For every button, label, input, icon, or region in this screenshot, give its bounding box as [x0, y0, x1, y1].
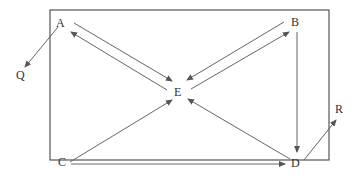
- node-r-label: R: [335, 102, 343, 116]
- edge-a-to-q: [25, 27, 58, 67]
- edge-b-to-e: [187, 22, 284, 80]
- edge-c-to-e: [70, 100, 172, 162]
- node-e-label: E: [174, 85, 181, 99]
- edge-d-to-e: [188, 99, 290, 159]
- edge-e-to-b: [191, 32, 289, 89]
- directed-graph-diagram: A B C D E Q R: [0, 0, 360, 183]
- edge-d-to-r: [304, 120, 336, 160]
- edge-a-to-e: [74, 23, 172, 81]
- node-a-label: A: [56, 16, 65, 30]
- node-d-label: D: [291, 156, 300, 170]
- node-q-label: Q: [16, 68, 25, 82]
- node-c-label: C: [58, 155, 66, 169]
- node-b-label: B: [291, 15, 299, 29]
- edge-e-to-a: [71, 32, 167, 90]
